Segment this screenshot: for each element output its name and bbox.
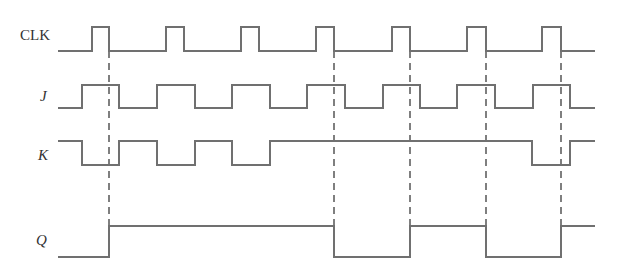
clk-label: CLK: [20, 27, 50, 43]
q-waveform: [58, 226, 595, 257]
timing-diagram: CLK J K Q: [0, 0, 619, 280]
clk-waveform: [58, 27, 595, 51]
q-label: Q: [36, 232, 47, 248]
waveforms: [58, 27, 595, 257]
k-label: K: [37, 147, 49, 163]
j-label: J: [40, 88, 48, 104]
j-waveform: [58, 85, 595, 108]
k-waveform: [58, 141, 595, 165]
signal-labels: CLK J K Q: [20, 27, 50, 248]
